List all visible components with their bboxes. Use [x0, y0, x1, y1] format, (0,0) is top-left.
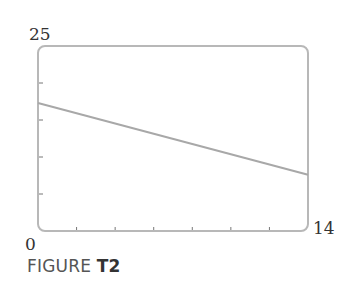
y-axis-ticks: [39, 83, 43, 194]
chart-plot-area: [0, 0, 345, 297]
caption-figure-id: T2: [97, 256, 121, 276]
figure-caption: FIGURE T2: [27, 256, 121, 276]
y-axis-max-label: 25: [29, 26, 51, 43]
data-line: [38, 103, 308, 175]
caption-prefix: FIGURE: [27, 256, 97, 276]
x-axis-min-label: 0: [25, 236, 36, 253]
x-axis-ticks: [77, 227, 270, 230]
x-axis-max-label: 14: [313, 220, 335, 237]
